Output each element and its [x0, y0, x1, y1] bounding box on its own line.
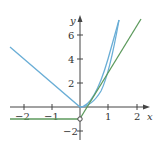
x-tick-label: −2 — [15, 111, 30, 122]
green-sloped-line — [81, 19, 141, 117]
y-tick-label: −2 — [63, 126, 78, 137]
y-tick-label: 2 — [68, 78, 74, 89]
x-tick-label: 2 — [134, 111, 140, 122]
y-tick-label: 4 — [68, 54, 74, 65]
y-tick-label: 6 — [68, 30, 74, 41]
x-tick-label: 1 — [105, 111, 111, 122]
y-axis-label: y — [69, 15, 76, 26]
x-tick-label: −1 — [44, 111, 59, 122]
chart: −2 −1 1 2 6 4 2 −2 x y — [0, 0, 157, 142]
y-axis-arrow-icon — [78, 15, 83, 22]
x-axis-arrow-icon — [143, 105, 150, 110]
blue-curve — [10, 20, 119, 107]
open-circle-marker — [78, 117, 82, 121]
x-axis-label: x — [147, 111, 153, 122]
